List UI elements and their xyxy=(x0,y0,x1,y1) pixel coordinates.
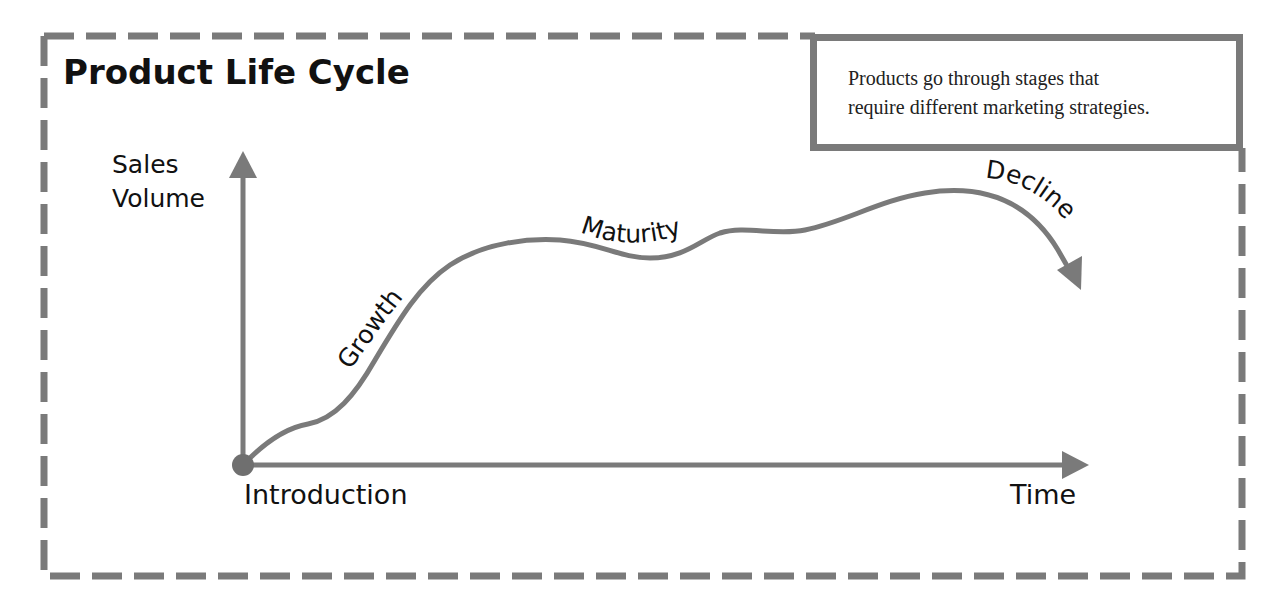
stage-label-decline: Decline xyxy=(984,155,1082,225)
y-axis-arrow-icon xyxy=(229,151,257,178)
info-text-line-2: require different marketing strategies. xyxy=(848,93,1238,122)
decline-arrow-icon xyxy=(1057,256,1082,290)
origin-dot xyxy=(232,454,254,476)
info-box: Products go through stages that require … xyxy=(810,34,1243,151)
x-axis xyxy=(243,451,1089,479)
y-axis xyxy=(229,151,257,465)
stage-label-maturity: Maturity xyxy=(578,210,684,248)
y-axis-label-line-2: Volume xyxy=(112,182,205,216)
x-axis-arrow-icon xyxy=(1062,451,1089,479)
y-axis-label-line-1: Sales xyxy=(112,148,205,182)
origin-label-introduction: Introduction xyxy=(244,478,408,512)
y-axis-label: Sales Volume xyxy=(112,148,205,216)
page-title: Product Life Cycle xyxy=(63,52,410,92)
x-axis-label: Time xyxy=(1010,478,1076,512)
info-text: Products go through stages that require … xyxy=(848,64,1238,122)
info-text-line-1: Products go through stages that xyxy=(848,64,1238,93)
